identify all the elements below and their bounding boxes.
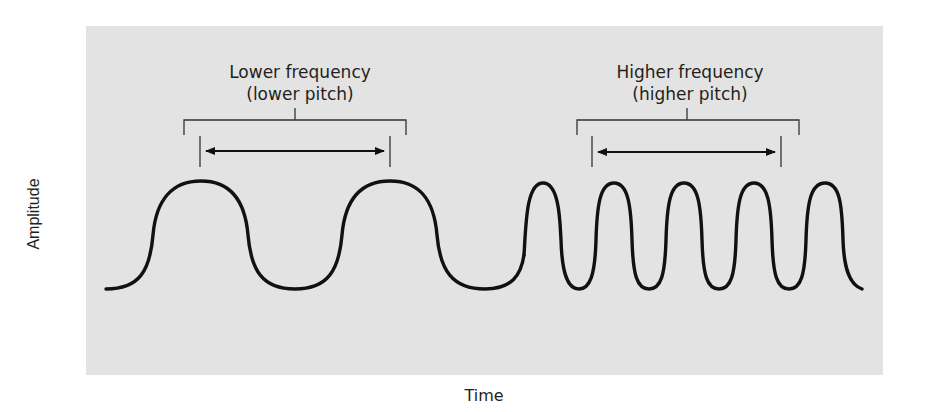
low-frequency-wave <box>106 181 524 289</box>
lower-frequency-period-arrow <box>200 136 390 167</box>
higher-frequency-bracket <box>577 108 799 135</box>
high-frequency-wave <box>524 183 862 289</box>
waveform-diagram <box>0 0 936 412</box>
lower-frequency-bracket <box>184 108 406 135</box>
higher-frequency-period-arrow <box>592 136 781 167</box>
